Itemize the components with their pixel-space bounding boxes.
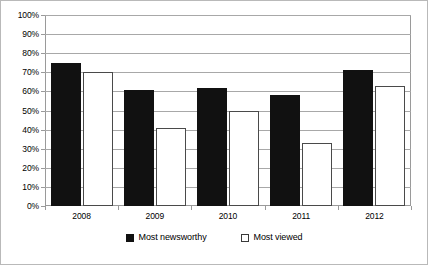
y-axis-tick-label: 0% — [5, 202, 39, 211]
bar-2011-series0 — [270, 95, 300, 206]
x-axis-tick-label: 2011 — [271, 212, 331, 221]
bar-2010-series1 — [229, 111, 259, 207]
y-axis-tick-label: 60% — [5, 87, 39, 96]
gridline — [45, 53, 411, 54]
bar-2011-series1 — [302, 143, 332, 206]
x-axis-tick-label: 2010 — [198, 212, 258, 221]
y-axis-tick-label: 10% — [5, 183, 39, 192]
chart-legend: Most newsworthyMost viewed — [1, 233, 427, 242]
y-axis-tick-label: 30% — [5, 144, 39, 153]
y-axis-tick-label: 50% — [5, 106, 39, 115]
y-axis-tick-label: 40% — [5, 125, 39, 134]
x-axis-tick-mark — [118, 206, 119, 210]
bar-2009-series1 — [156, 128, 186, 206]
bar-2010-series0 — [197, 88, 227, 206]
x-axis-tick-label: 2008 — [52, 212, 112, 221]
y-axis-tick-label: 80% — [5, 49, 39, 58]
bar-2008-series1 — [83, 72, 113, 206]
bar-2012-series1 — [375, 86, 405, 206]
y-axis-tick-label: 70% — [5, 68, 39, 77]
y-axis-tick-label: 20% — [5, 164, 39, 173]
bar-2009-series0 — [124, 90, 154, 207]
x-axis-tick-label: 2009 — [125, 212, 185, 221]
plot-area — [45, 15, 411, 206]
bar-chart-figure: 0%10%20%30%40%50%60%70%80%90%100% 200820… — [0, 0, 428, 265]
y-axis-tick-label: 90% — [5, 30, 39, 39]
bar-2012-series0 — [343, 70, 373, 206]
x-axis-tick-label: 2012 — [344, 212, 404, 221]
x-axis-tick-mark — [411, 206, 412, 210]
bar-2008-series0 — [51, 63, 81, 206]
legend-label: Most newsworthy — [139, 233, 207, 242]
legend-item-0[interactable]: Most newsworthy — [126, 233, 207, 242]
gridline — [45, 34, 411, 35]
x-axis-tick-mark — [191, 206, 192, 210]
x-axis-tick-mark — [265, 206, 266, 210]
legend-item-1[interactable]: Most viewed — [241, 233, 303, 242]
legend-swatch-icon — [126, 234, 134, 242]
y-axis-tick-label: 100% — [5, 11, 39, 20]
x-axis-tick-mark — [338, 206, 339, 210]
x-axis-tick-mark — [45, 206, 46, 210]
legend-swatch-icon — [241, 234, 249, 242]
legend-label: Most viewed — [254, 233, 303, 242]
gridline — [45, 15, 411, 16]
